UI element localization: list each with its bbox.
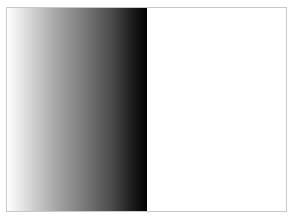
figure-frame [6, 7, 287, 212]
blank-white-panel [147, 8, 286, 211]
grayscale-gradient-panel [7, 8, 147, 211]
